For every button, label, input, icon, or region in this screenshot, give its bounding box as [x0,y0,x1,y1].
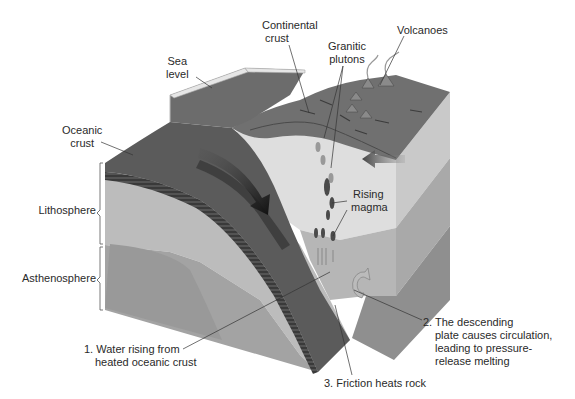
label-lithosphere: Lithosphere [28,204,96,217]
label-line: Oceanic [62,124,102,137]
label-line: Granitic [328,40,366,53]
label-line: Rising [353,188,388,201]
asthenosphere-bracket [97,247,103,310]
label-continental-crust: Continental crust [262,19,318,45]
annotation-line: release melting [435,355,552,368]
label-line: crust [265,32,318,45]
label-line: Continental [262,19,318,32]
label-line: level [166,68,189,81]
annotation-line: 1. Water rising from [84,343,197,356]
lithosphere-bracket [97,163,103,244]
annotation-step2: 2. The descending plate causes circulati… [423,316,552,368]
label-line: Sea [166,55,189,68]
annotation-line: 2. The descending [423,316,552,329]
annotation-line: leading to pressure- [435,342,552,355]
label-asthenosphere: Asthenosphere [10,272,96,285]
label-line: magma [351,201,388,214]
label-line: plutons [328,53,366,66]
label-volcanoes: Volcanoes [397,24,448,37]
annotation-step1: 1. Water rising from heated oceanic crus… [84,343,197,369]
label-granitic-plutons: Granitic plutons [328,40,366,66]
label-sea-level: Sea level [166,55,189,81]
label-rising-magma: Rising magma [351,188,388,214]
label-line: crust [62,137,102,150]
annotation-step3: 3. Friction heats rock [324,377,426,390]
annotation-line: plate causes circulation, [435,329,552,342]
annotation-line: heated oceanic crust [95,356,197,369]
label-oceanic-crust: Oceanic crust [62,124,102,150]
